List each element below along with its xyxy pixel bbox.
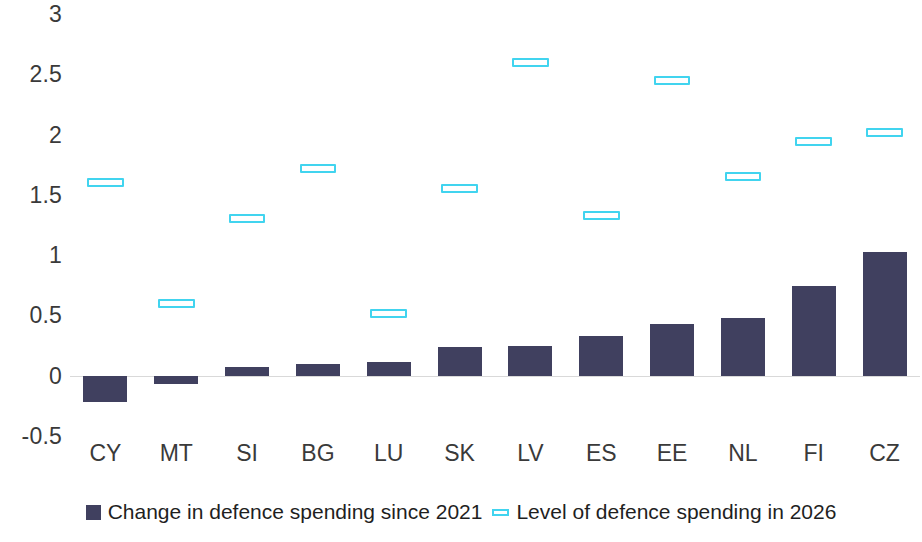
level-marker-bg: [300, 164, 337, 173]
x-axis-tick-label: MT: [160, 440, 193, 467]
legend-label: Level of defence spending in 2026: [516, 500, 836, 524]
x-axis-tick-label: CZ: [869, 440, 900, 467]
level-marker-si: [229, 214, 266, 223]
y-axis-tick-label: 1: [49, 242, 62, 269]
x-axis-tick-label: FI: [804, 440, 824, 467]
bar-bg: [296, 364, 340, 376]
level-marker-es: [583, 211, 620, 220]
legend-entry[interactable]: Level of defence spending in 2026: [492, 500, 836, 524]
x-axis: CYMTSIBGLUSKLVESEENLFICZ: [70, 440, 920, 480]
bar-lu: [367, 362, 411, 375]
bar-lv: [508, 346, 552, 376]
legend-swatch-bar-icon: [86, 505, 101, 520]
y-axis-tick-label: 1.5: [29, 181, 62, 208]
y-axis-tick-label: 2.5: [29, 61, 62, 88]
chart-legend: Change in defence spending since 2021Lev…: [0, 500, 922, 524]
plot-area: [70, 14, 920, 436]
x-axis-tick-label: SI: [236, 440, 258, 467]
level-marker-fi: [795, 137, 832, 146]
x-axis-tick-label: ES: [586, 440, 617, 467]
level-marker-mt: [158, 299, 195, 308]
y-axis-tick-label: 2: [49, 121, 62, 148]
level-marker-cz: [866, 128, 903, 137]
x-axis-tick-label: CY: [89, 440, 121, 467]
y-axis-tick-label: 3: [49, 1, 62, 28]
bar-cy: [83, 376, 127, 403]
y-axis: 32.521.510.50-0.5: [0, 0, 70, 460]
y-axis-tick-label: 0.5: [29, 302, 62, 329]
x-axis-tick-label: BG: [301, 440, 334, 467]
legend-label: Change in defence spending since 2021: [108, 500, 483, 524]
y-axis-tick-label: 0: [49, 362, 62, 389]
level-marker-sk: [441, 184, 478, 193]
bar-es: [579, 336, 623, 376]
defence-spending-chart: 32.521.510.50-0.5 CYMTSIBGLUSKLVESEENLFI…: [0, 0, 922, 542]
level-marker-lu: [370, 309, 407, 318]
x-axis-tick-label: LV: [517, 440, 543, 467]
bar-ee: [650, 324, 694, 376]
bar-sk: [438, 347, 482, 376]
level-marker-cy: [87, 178, 124, 187]
x-axis-tick-label: SK: [444, 440, 475, 467]
level-marker-nl: [725, 172, 762, 181]
level-marker-lv: [512, 58, 549, 67]
level-marker-ee: [654, 76, 691, 85]
x-axis-tick-label: EE: [657, 440, 688, 467]
bar-cz: [863, 252, 907, 376]
legend-entry[interactable]: Change in defence spending since 2021: [86, 500, 483, 524]
x-axis-tick-label: NL: [728, 440, 757, 467]
bar-nl: [721, 318, 765, 376]
x-axis-tick-label: LU: [374, 440, 403, 467]
bar-si: [225, 367, 269, 375]
bar-fi: [792, 286, 836, 375]
legend-swatch-marker-icon: [492, 509, 509, 516]
bar-mt: [154, 376, 198, 384]
y-axis-tick-label: -0.5: [22, 423, 62, 450]
